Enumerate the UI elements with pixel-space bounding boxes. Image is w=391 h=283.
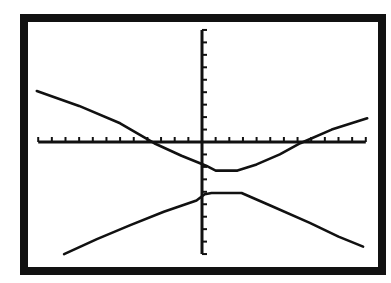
axes bbox=[38, 30, 366, 254]
graph-plot bbox=[0, 0, 391, 283]
curve-lower-branch bbox=[64, 193, 363, 254]
